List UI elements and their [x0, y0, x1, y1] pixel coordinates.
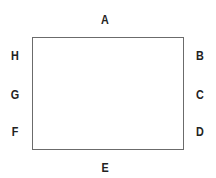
label-g: G [9, 88, 22, 102]
label-d: D [194, 125, 207, 139]
label-h: H [9, 49, 22, 63]
rectangle-shape [32, 37, 184, 150]
label-a: A [99, 13, 112, 27]
label-e: E [99, 161, 112, 175]
label-b: B [194, 49, 207, 63]
label-f: F [9, 125, 22, 139]
label-c: C [194, 88, 207, 102]
